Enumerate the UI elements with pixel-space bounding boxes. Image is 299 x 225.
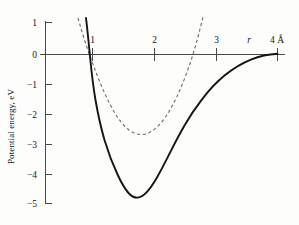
potential-energy-figure: 1 0 −1 −2 −3 −4 −5 1 2 3 4 Å r Potential… [0, 0, 299, 225]
morse-potential-chart: 1 0 −1 −2 −3 −4 −5 1 2 3 4 Å r Potential… [0, 0, 299, 225]
y-tick-label-minus1: −1 [27, 80, 37, 90]
x-axis-variable-label: r [247, 35, 251, 45]
x-tick-label-3: 3 [214, 35, 219, 45]
y-tick-label-0: 0 [32, 50, 37, 60]
y-tick-label-minus3: −3 [27, 140, 37, 150]
y-tick-label-minus4: −4 [27, 170, 37, 180]
x-tick-label-2: 2 [152, 35, 157, 45]
y-tick-label-minus2: −2 [27, 110, 37, 120]
y-axis-title: Potential energy, eV [6, 89, 16, 164]
y-tick-label-minus5: −5 [27, 199, 37, 209]
harmonic-parabola-curve [78, 17, 203, 135]
y-tick-label-1: 1 [32, 18, 37, 28]
x-tick-label-4-angstrom: 4 Å [270, 34, 284, 45]
x-tick-label-1: 1 [90, 35, 95, 45]
y-axis-ticks [46, 23, 53, 204]
